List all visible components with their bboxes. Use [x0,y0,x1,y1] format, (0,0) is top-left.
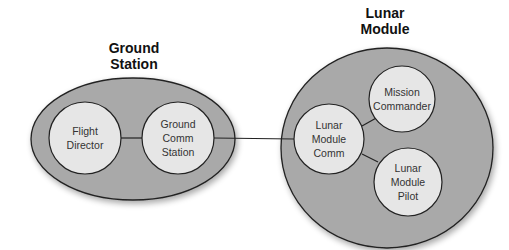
ground-station-title: Ground Station [93,40,175,72]
lunar-module-pilot-label: Lunar Module Pilot [391,161,425,203]
lunar-module-title: Lunar Module [340,5,430,37]
ground-comm-station-label: Ground Comm Station [160,117,195,159]
mission-commander-label: Mission Commander [373,85,431,113]
lunar-module-comm-label: Lunar Module Comm [312,118,346,160]
flight-director-label: Flight Director [67,124,104,152]
